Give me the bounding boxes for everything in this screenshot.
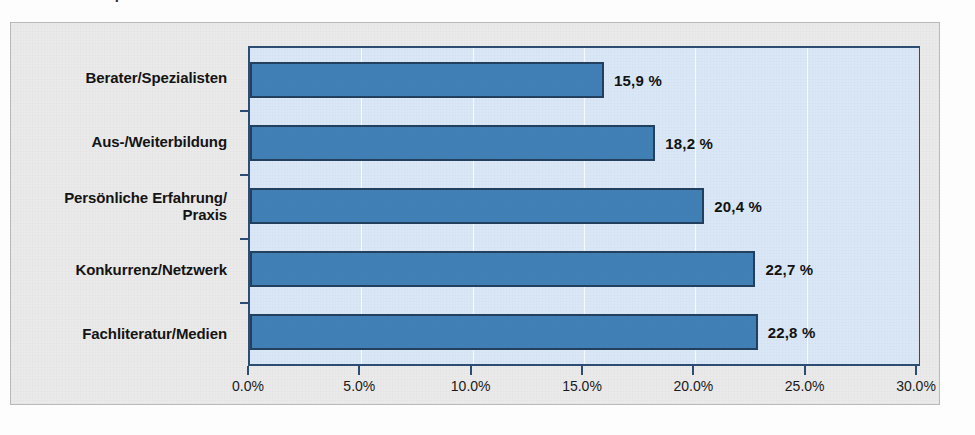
- x-tick-mark-2: [470, 366, 472, 375]
- plot-area: 15,9 % 18,2 % 20,4 % 22,7 %: [248, 46, 920, 366]
- category-axis: Berater/Spezialisten Aus-/Weiterbildung …: [11, 46, 239, 366]
- category-tick-1: [240, 174, 248, 176]
- bar-row-4: 22,8 %: [250, 301, 918, 364]
- bar-3[interactable]: 22,7 %: [250, 251, 755, 287]
- bar-value-label-1: 18,2 %: [665, 134, 713, 151]
- x-tick-label-2: 10.0%: [451, 378, 491, 394]
- x-tick-mark-6: [915, 366, 917, 375]
- value-axis: 0.0%5.0%10.0%15.0%20.0%25.0%30.0%: [248, 366, 920, 404]
- bar-value-label-4: 22,8 %: [768, 324, 816, 341]
- category-tick-2: [240, 238, 248, 240]
- x-tick-mark-4: [692, 366, 694, 375]
- clipped-title-text: Informationsquellen: [14, 0, 975, 1]
- category-label-0: Berater/Spezialisten: [11, 46, 239, 110]
- clipped-title-fragment: Informationsquellen: [0, 0, 975, 14]
- x-tick-label-5: 25.0%: [785, 378, 825, 394]
- bars-layer: 15,9 % 18,2 % 20,4 % 22,7 %: [250, 48, 918, 364]
- category-tick-3: [240, 302, 248, 304]
- bar-0[interactable]: 15,9 %: [250, 62, 604, 98]
- x-tick-mark-1: [358, 366, 360, 375]
- category-label-2: Persönliche Erfahrung/ Praxis: [11, 174, 239, 238]
- x-tick-label-3: 15.0%: [562, 378, 602, 394]
- x-tick-mark-0: [247, 366, 249, 375]
- x-tick-mark-5: [804, 366, 806, 375]
- bar-row-0: 15,9 %: [250, 48, 918, 111]
- category-label-4: Fachliteratur/Medien: [11, 302, 239, 366]
- chart-screenshot: Informationsquellen Berater/Spezialisten…: [0, 0, 975, 435]
- bar-value-label-2: 20,4 %: [714, 198, 762, 215]
- category-label-3: Konkurrenz/Netzwerk: [11, 238, 239, 302]
- chart-panel: Berater/Spezialisten Aus-/Weiterbildung …: [10, 22, 940, 405]
- gridline-30: [918, 48, 919, 364]
- bar-row-1: 18,2 %: [250, 111, 918, 174]
- bar-1[interactable]: 18,2 %: [250, 125, 655, 161]
- x-tick-label-1: 5.0%: [343, 378, 375, 394]
- bar-4[interactable]: 22,8 %: [250, 314, 758, 350]
- x-tick-label-4: 20.0%: [673, 378, 713, 394]
- bar-2[interactable]: 20,4 %: [250, 188, 704, 224]
- bar-value-label-0: 15,9 %: [614, 71, 662, 88]
- category-label-1: Aus-/Weiterbildung: [11, 110, 239, 174]
- x-tick-label-6: 30.0%: [896, 378, 936, 394]
- category-tick-0: [240, 110, 248, 112]
- x-tick-label-0: 0.0%: [232, 378, 264, 394]
- x-tick-mark-3: [581, 366, 583, 375]
- bar-row-2: 20,4 %: [250, 174, 918, 237]
- bar-value-label-3: 22,7 %: [765, 261, 813, 278]
- bar-row-3: 22,7 %: [250, 238, 918, 301]
